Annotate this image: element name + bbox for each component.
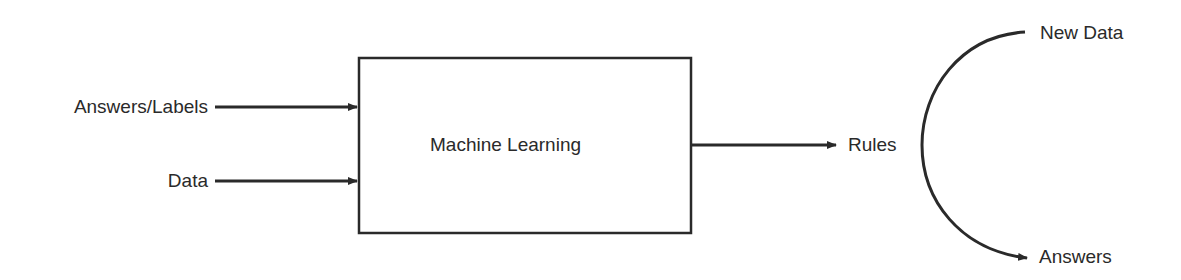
machine-learning-label: Machine Learning <box>430 134 581 156</box>
application-arc-arrow <box>922 32 1027 258</box>
answers-labels-label: Answers/Labels <box>40 96 208 118</box>
data-label: Data <box>40 170 208 192</box>
new-data-label: New Data <box>1040 22 1123 44</box>
ml-diagram <box>0 0 1181 280</box>
answers-label: Answers <box>1039 246 1112 268</box>
rules-label: Rules <box>848 134 897 156</box>
